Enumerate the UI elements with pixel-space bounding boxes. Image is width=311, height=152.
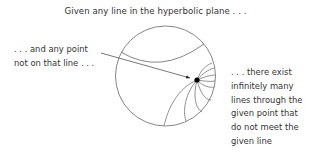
given-line (121, 44, 204, 62)
arrow-to-point (101, 53, 190, 78)
poincare-disk-diagram (0, 0, 311, 152)
given-point (194, 77, 199, 82)
